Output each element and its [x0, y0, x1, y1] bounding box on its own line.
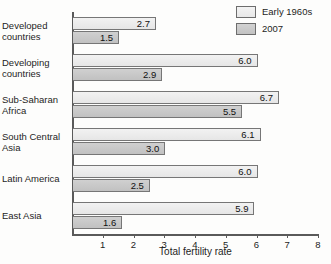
category-label: East Asia — [2, 210, 70, 222]
bar-value-label: 5.5 — [223, 106, 241, 117]
x-tick-mark — [257, 234, 258, 238]
category-label-line: Latin America — [2, 173, 70, 185]
bar-value-label: 5.9 — [235, 203, 253, 214]
bar-value-label: 1.5 — [100, 32, 118, 43]
bar-row: 1.5 — [73, 31, 319, 44]
bar-2007: 2.5 — [73, 179, 150, 192]
bar-value-label: 6.0 — [238, 166, 256, 177]
category-label: Developingcountries — [2, 57, 70, 80]
bar-value-label: 6.7 — [260, 92, 278, 103]
bar-group: 6.75.5 — [73, 91, 319, 119]
bar-2007: 1.5 — [73, 31, 119, 44]
bar-early-1960s: 6.0 — [73, 165, 258, 178]
category-label-line: Africa — [2, 105, 70, 117]
bar-group: 6.02.9 — [73, 54, 319, 82]
x-tick-mark — [287, 234, 288, 238]
bar-row: 6.0 — [73, 165, 319, 178]
x-tick-mark — [103, 234, 104, 238]
bar-value-label: 2.9 — [143, 69, 161, 80]
bar-2007: 5.5 — [73, 105, 242, 118]
category-label-line: Developed — [2, 20, 70, 32]
bar-2007: 1.6 — [73, 216, 122, 229]
bar-2007: 3.0 — [73, 142, 165, 155]
category-label-line: Asia — [2, 142, 70, 154]
bar-row: 6.1 — [73, 128, 319, 141]
bar-value-label: 1.6 — [103, 217, 121, 228]
x-tick-mark — [318, 234, 319, 238]
category-label-line: Developing — [2, 57, 70, 69]
bar-value-label: 3.0 — [146, 143, 164, 154]
bar-row: 5.5 — [73, 105, 319, 118]
plot-area: 2.71.56.02.96.75.56.13.06.02.55.91.6 123… — [72, 12, 319, 234]
bar-value-label: 6.1 — [241, 129, 259, 140]
bar-row: 1.6 — [73, 216, 319, 229]
bar-group: 5.91.6 — [73, 202, 319, 230]
bar-early-1960s: 2.7 — [73, 17, 156, 30]
bar-early-1960s: 6.0 — [73, 54, 258, 67]
category-label-line: Sub-Saharan — [2, 94, 70, 106]
bar-row: 6.0 — [73, 54, 319, 67]
bar-row: 2.5 — [73, 179, 319, 192]
x-axis-title: Total fertility rate — [72, 246, 319, 258]
bar-value-label: 2.7 — [137, 18, 155, 29]
x-tick-mark — [226, 234, 227, 238]
bar-row: 2.9 — [73, 68, 319, 81]
category-label: Developedcountries — [2, 20, 70, 43]
category-label: Sub-SaharanAfrica — [2, 94, 70, 117]
x-tick-mark — [195, 234, 196, 238]
bar-2007: 2.9 — [73, 68, 162, 81]
category-label-line: East Asia — [2, 210, 70, 222]
bar-group: 6.02.5 — [73, 165, 319, 193]
category-label: Latin America — [2, 173, 70, 185]
category-label: South CentralAsia — [2, 131, 70, 154]
bar-value-label: 2.5 — [131, 180, 149, 191]
category-label-line: countries — [2, 68, 70, 80]
bar-early-1960s: 6.7 — [73, 91, 279, 104]
bar-row: 3.0 — [73, 142, 319, 155]
bar-group: 6.13.0 — [73, 128, 319, 156]
bar-group: 2.71.5 — [73, 17, 319, 45]
y-axis-line — [72, 12, 74, 234]
bar-row: 2.7 — [73, 17, 319, 30]
bar-early-1960s: 6.1 — [73, 128, 261, 141]
fertility-rate-bar-chart: Early 1960s 2007 DevelopedcountriesDevel… — [0, 0, 331, 264]
category-label-line: South Central — [2, 131, 70, 143]
bar-row: 6.7 — [73, 91, 319, 104]
x-tick-mark — [164, 234, 165, 238]
x-tick-mark — [134, 234, 135, 238]
category-label-line: countries — [2, 31, 70, 43]
bar-value-label: 6.0 — [238, 55, 256, 66]
bar-row: 5.9 — [73, 202, 319, 215]
bar-early-1960s: 5.9 — [73, 202, 254, 215]
